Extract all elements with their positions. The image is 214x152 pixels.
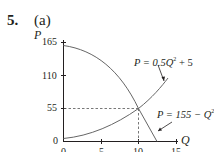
chart-plot	[0, 0, 214, 152]
supply-eq-suffix: + 5	[176, 57, 192, 68]
demand-equation-label: P = 155 − Q2	[157, 108, 214, 120]
supply-eq-prefix: P = 0.5Q	[134, 57, 173, 68]
supply-equation-label: P = 0.5Q2 + 5	[134, 56, 193, 68]
demand-eq-sup: 2	[211, 108, 214, 114]
demand-eq-prefix: P = 155 − Q	[157, 109, 211, 120]
